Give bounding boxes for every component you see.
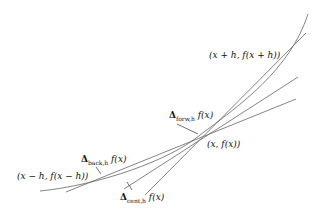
forw-leader	[177, 124, 198, 134]
label-backward-diff: Δback,h f(x)	[81, 154, 126, 166]
fx-text: f(x)	[108, 154, 126, 164]
label-point-minus: (x − h, f(x − h))	[17, 171, 88, 181]
back-leader	[96, 167, 101, 174]
diagram-canvas	[0, 0, 320, 213]
cent-leader	[127, 182, 132, 190]
delta-symbol: Δ	[169, 110, 176, 120]
label-point-plus: (x + h, f(x + h))	[209, 50, 280, 60]
subscript: forw,h	[176, 115, 195, 122]
delta-symbol: Δ	[120, 192, 127, 202]
delta-symbol: Δ	[81, 154, 88, 164]
label-central-diff: Δcent,h f(x)	[120, 192, 164, 204]
label-point-center: (x, f(x))	[207, 139, 240, 149]
subscript: back,h	[88, 159, 108, 166]
fx-text: f(x)	[195, 110, 213, 120]
fx-text: f(x)	[146, 192, 164, 202]
subscript: cent,h	[127, 197, 146, 204]
label-forward-diff: Δforw,h f(x)	[169, 110, 213, 122]
